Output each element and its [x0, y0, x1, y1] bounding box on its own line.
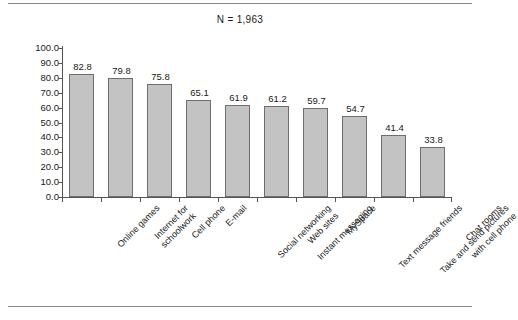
x-axis-category-labels: Online gamesInternet for schoolworkCell … — [62, 197, 462, 307]
y-axis-tick-label: 20.0 — [19, 162, 59, 172]
y-axis-tick-label: 70.0 — [19, 88, 59, 98]
bar-slot: 54.7 — [337, 48, 374, 197]
bar-slot: 65.1 — [181, 48, 218, 197]
bar-slot: 61.2 — [259, 48, 296, 197]
y-axis-tick-label: 50.0 — [19, 118, 59, 128]
y-axis-tick-label: 30.0 — [19, 147, 59, 157]
y-axis-tick-label: 100.0 — [19, 43, 59, 53]
y-axis-tick-label: 0.0 — [19, 192, 59, 202]
chart-title: N = 1,963 — [0, 14, 480, 25]
bar[interactable] — [303, 108, 328, 197]
bar[interactable] — [342, 116, 367, 198]
bar-series: 82.879.875.865.161.961.259.754.741.433.8 — [62, 48, 452, 197]
bar-slot: 41.4 — [376, 48, 413, 197]
bar[interactable] — [420, 147, 445, 197]
x-axis-category-label: Online games — [115, 203, 162, 250]
bar[interactable] — [225, 105, 250, 197]
bar-slot: 59.7 — [298, 48, 335, 197]
bar[interactable] — [381, 135, 406, 197]
bar[interactable] — [264, 106, 289, 197]
x-axis-category-label: Social networking Web sites — [276, 203, 341, 268]
bar-value-label: 75.8 — [137, 72, 184, 82]
bar[interactable] — [108, 78, 133, 197]
bar-value-label: 41.4 — [371, 123, 418, 133]
y-axis-tick-label: 10.0 — [19, 177, 59, 187]
bar-value-label: 33.8 — [410, 135, 457, 145]
bar[interactable] — [69, 74, 94, 197]
bar-slot: 75.8 — [142, 48, 179, 197]
x-axis-category-label: Cell phone — [190, 203, 228, 241]
bar[interactable] — [147, 84, 172, 197]
top-divider-rule — [8, 3, 472, 4]
y-axis-tick-label: 40.0 — [19, 132, 59, 142]
bar-slot: 79.8 — [103, 48, 140, 197]
bar-slot: 82.8 — [64, 48, 101, 197]
x-axis-category-label: E-mail — [223, 203, 248, 228]
y-axis-tick-label: 90.0 — [19, 58, 59, 68]
plot-area: 82.879.875.865.161.961.259.754.741.433.8 — [62, 48, 452, 197]
y-axis-tick-label: 80.0 — [19, 73, 59, 83]
bar-value-label: 54.7 — [332, 104, 379, 114]
bar-slot: 33.8 — [415, 48, 452, 197]
bar-slot: 61.9 — [220, 48, 257, 197]
bar[interactable] — [186, 100, 211, 197]
y-axis-tick-label: 60.0 — [19, 103, 59, 113]
